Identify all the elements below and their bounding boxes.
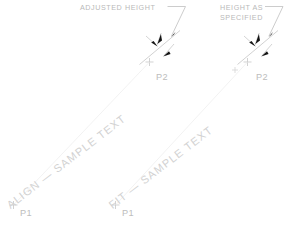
callout-height-as-specified-line2: SPECIFIED	[220, 13, 263, 23]
dimension-arrows-right	[244, 33, 272, 56]
point-label-left-p2: P2	[156, 72, 168, 82]
dimension-extension-left	[140, 31, 181, 65]
point-label-right-p1: P1	[122, 208, 134, 218]
callout-height-as-specified: HEIGHT AS SPECIFIED	[220, 3, 263, 22]
leader-height-as-specified	[265, 7, 283, 38]
dimension-arrows-left	[146, 33, 174, 56]
point-tick-right-p2-aux	[232, 67, 238, 73]
drawing-vector-layer	[0, 0, 288, 228]
callout-adjusted-height: ADJUSTED HEIGHT	[80, 3, 155, 13]
point-label-left-p1: P1	[20, 208, 32, 218]
leader-adjusted-height	[168, 7, 186, 38]
dim-arrowhead-left-mid	[157, 34, 162, 44]
callout-height-as-specified-line1: HEIGHT AS	[220, 3, 263, 13]
point-label-right-p2: P2	[256, 72, 268, 82]
dimension-extension-right	[238, 31, 279, 65]
cad-drawing-canvas: ADJUSTED HEIGHT HEIGHT AS SPECIFIED P2 P…	[0, 0, 288, 228]
dim-arrowhead-right-mid	[255, 34, 260, 44]
